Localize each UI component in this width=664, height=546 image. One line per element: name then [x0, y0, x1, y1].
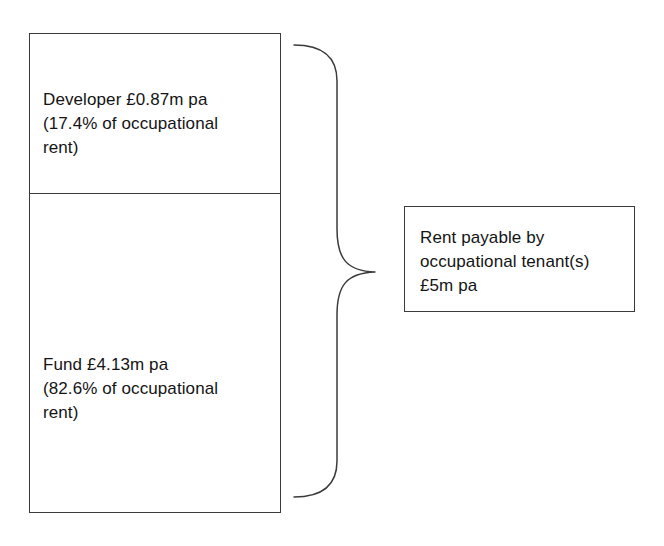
grouping-brace [285, 33, 385, 513]
rent-segment-fund: Fund £4.13m pa (82.6% of occupational re… [30, 194, 280, 512]
rent-segment-developer: Developer £0.87m pa (17.4% of occupation… [30, 34, 280, 194]
occupational-rent-column: Developer £0.87m pa (17.4% of occupation… [29, 33, 281, 513]
rent-segment-developer-label: Developer £0.87m pa (17.4% of occupation… [43, 88, 265, 160]
summary-box-total-rent: Rent payable by occupational tenant(s) £… [404, 206, 635, 312]
summary-box-label: Rent payable by occupational tenant(s) £… [420, 226, 625, 298]
curly-brace-icon [285, 33, 385, 513]
rent-segment-fund-label: Fund £4.13m pa (82.6% of occupational re… [43, 353, 265, 425]
diagram-canvas: Developer £0.87m pa (17.4% of occupation… [0, 0, 664, 546]
